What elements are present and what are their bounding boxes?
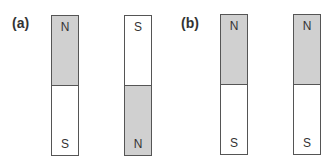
pole-letter: S [52, 138, 78, 150]
magnet-b2-top-pole: N [294, 15, 320, 85]
panel-b-label: (b) [181, 16, 199, 30]
panel-a-label: (a) [12, 16, 29, 30]
pole-letter: N [52, 21, 78, 33]
magnet-a1: N S [51, 15, 79, 156]
magnet-a2-top-pole: S [125, 16, 151, 86]
pole-letter: N [294, 20, 320, 32]
pole-letter: N [221, 20, 247, 32]
pole-letter: S [294, 137, 320, 149]
magnet-b1-top-pole: N [221, 15, 247, 85]
magnet-b1: N S [220, 14, 248, 155]
magnet-b2: N S [293, 14, 321, 155]
magnet-b1-bottom-pole: S [221, 85, 247, 154]
magnet-a1-bottom-pole: S [52, 86, 78, 155]
pole-letter: S [221, 137, 247, 149]
magnet-a2-bottom-pole: N [125, 86, 151, 155]
pole-letter: N [125, 138, 151, 150]
pole-letter: S [125, 21, 151, 33]
magnet-a1-top-pole: N [52, 16, 78, 86]
magnet-b2-bottom-pole: S [294, 85, 320, 154]
magnet-a2: S N [124, 15, 152, 156]
